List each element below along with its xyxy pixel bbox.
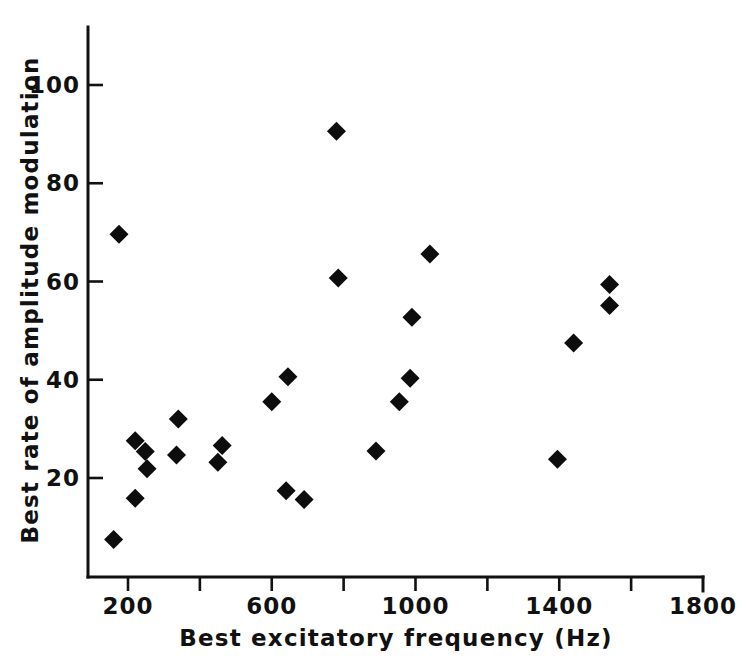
data-point xyxy=(366,441,385,460)
scatter-plot-figure: 20406080100 200600100014001800 Best exci… xyxy=(0,0,748,664)
data-point xyxy=(548,450,567,469)
data-point xyxy=(262,392,281,411)
data-point xyxy=(278,367,297,386)
data-point xyxy=(169,410,188,429)
data-point xyxy=(295,490,314,509)
data-point xyxy=(327,122,346,141)
data-point xyxy=(277,481,296,500)
y-tick-label-40: 40 xyxy=(46,367,80,393)
data-point xyxy=(104,530,123,549)
x-tick-label-200: 200 xyxy=(102,593,153,619)
data-point-group xyxy=(104,122,619,549)
y-tick-group xyxy=(88,85,103,478)
x-tick-label-1400: 1400 xyxy=(525,593,593,619)
y-axis-title: Best rate of amplitude modulation xyxy=(17,57,43,544)
x-tick-label-600: 600 xyxy=(246,593,297,619)
data-point xyxy=(564,333,583,352)
data-point xyxy=(390,392,409,411)
data-point xyxy=(600,296,619,315)
data-point xyxy=(126,489,145,508)
x-tick-label-1800: 1800 xyxy=(669,593,737,619)
data-point xyxy=(213,436,232,455)
x-tick-group xyxy=(128,577,631,591)
data-point xyxy=(401,369,420,388)
data-point xyxy=(600,275,619,294)
x-tick-label-group: 200600100014001800 xyxy=(102,593,737,619)
data-point xyxy=(138,459,157,478)
data-point xyxy=(420,244,439,263)
y-tick-label-80: 80 xyxy=(46,170,80,196)
data-point xyxy=(402,308,421,327)
x-axis-title: Best excitatory frequency (Hz) xyxy=(179,625,612,651)
data-point xyxy=(329,269,348,288)
data-point xyxy=(167,445,186,464)
data-point xyxy=(208,453,227,472)
plot-canvas: 20406080100 200600100014001800 Best exci… xyxy=(0,0,748,664)
y-tick-label-20: 20 xyxy=(46,465,80,491)
x-tick-label-1000: 1000 xyxy=(381,593,449,619)
data-point xyxy=(110,225,129,244)
y-tick-label-60: 60 xyxy=(46,269,80,295)
